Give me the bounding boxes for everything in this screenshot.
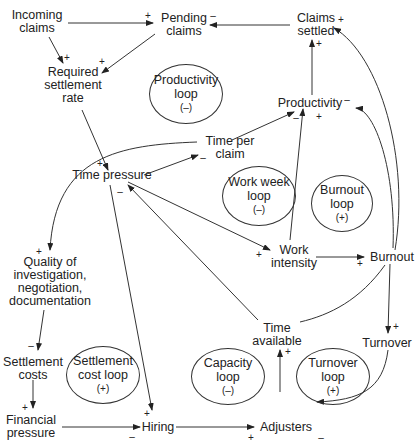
polarity-burnout-turnover: + <box>393 322 399 332</box>
loop-turnover: Turnover loop (+) <box>296 348 370 405</box>
node-adjusters: Adjusters <box>260 421 312 434</box>
loop-settlement-cost: Settlement cost loop (+) <box>66 346 140 404</box>
link-burnout-timeavailable <box>300 265 385 322</box>
polarity-timepressure-workintensity: + <box>256 250 262 260</box>
node-claims-settled: Claims settled <box>297 12 335 38</box>
link-timepressure-timeperclaim <box>144 155 198 175</box>
node-incoming-claims: Incoming claims <box>12 9 63 35</box>
node-financial-pressure: Financial pressure <box>6 414 56 440</box>
node-time-pressure: Time pressure <box>72 169 151 182</box>
node-turnover: Turnover <box>362 337 412 350</box>
loop-burnout: Burnout loop (+) <box>311 175 373 232</box>
loop-work-week: Work week loop (–) <box>222 166 296 226</box>
node-settlement-costs: Settlement costs <box>3 356 63 382</box>
polarity-incoming-required: + <box>64 53 70 63</box>
polarity-quality-settlementcosts: – <box>28 341 34 351</box>
polarity-burnout-productivity: – <box>344 95 350 105</box>
node-quality: Quality of investigation, negotiation, d… <box>9 256 91 308</box>
node-productivity: Productivity <box>278 97 343 110</box>
node-time-available: Time available <box>252 322 301 348</box>
polarity-incoming-pending: + <box>145 11 151 21</box>
polarity-timeavailable-timepressure: – <box>117 187 123 197</box>
polarity-workintensity-burnout: + <box>357 259 363 269</box>
polarity-adjusters-timeavailable: + <box>285 347 291 357</box>
polarity-settled-pending: – <box>210 11 216 21</box>
link-burnout-productivity <box>356 108 393 248</box>
polarity-timepressure-timeperclaim: – <box>200 153 206 163</box>
node-time-per-claim: Time per claim <box>206 135 255 161</box>
polarity-timeperclaim-productivity: – <box>293 113 299 123</box>
polarity-timepressure-hiring: + <box>144 409 150 419</box>
node-required-settlement-rate: Required settlement rate <box>44 66 102 105</box>
loop-productivity: Productivity loop (–) <box>149 64 223 124</box>
loop-capacity: Capacity loop (–) <box>191 348 265 405</box>
polarity-turnover-adjusters: – <box>318 433 324 443</box>
link-pending-required <box>102 34 155 73</box>
polarity-required-timepressure: + <box>97 159 103 169</box>
node-hiring: Hiring <box>142 421 175 434</box>
link-workintensity-productivity <box>290 109 303 240</box>
polarity-hiring-adjusters: + <box>248 433 254 443</box>
node-pending-claims: Pending claims <box>161 12 207 38</box>
node-work-intensity: Work intensity <box>271 244 317 270</box>
polarity-workintensity-productivity: + <box>316 112 322 122</box>
link-burnout-turnover <box>388 264 390 333</box>
polarity-pending-required: + <box>99 57 105 67</box>
link-required-timepressure <box>82 110 108 170</box>
polarity-claims-settled-burnout: + <box>338 15 344 25</box>
polarity-productivity-settled: + <box>316 39 322 49</box>
node-burnout: Burnout <box>370 251 414 264</box>
polarity-financial-hiring: – <box>129 432 135 442</box>
link-quality-settlementcosts <box>38 310 44 350</box>
polarity-settlementcosts-financial: + <box>22 403 28 413</box>
polarity-timeperclaim-quality: + <box>36 247 42 257</box>
link-incoming-required <box>49 37 63 63</box>
